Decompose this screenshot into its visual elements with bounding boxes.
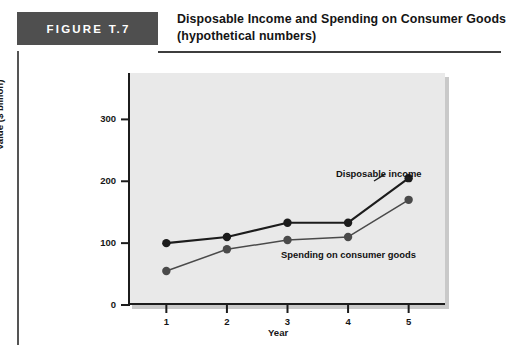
- x-tick-label: 3: [278, 316, 298, 327]
- series-label-disposable-income: Disposable income: [336, 168, 421, 179]
- data-point: [223, 245, 231, 253]
- y-axis-title: Value ($ billion): [0, 80, 5, 150]
- data-point: [404, 196, 412, 204]
- data-point: [344, 219, 352, 227]
- data-point: [344, 233, 352, 241]
- series-label-spending: Spending on consumer goods: [281, 249, 416, 260]
- x-axis-title: Year: [268, 327, 288, 338]
- y-tick-label: 300: [90, 113, 116, 124]
- data-point: [162, 239, 170, 247]
- data-point: [223, 233, 231, 241]
- data-point: [283, 236, 291, 244]
- x-tick-label: 1: [156, 316, 176, 327]
- axis-ticks: [121, 119, 409, 313]
- y-tick-label: 200: [90, 175, 116, 186]
- y-tick-label: 100: [90, 237, 116, 248]
- x-tick-label: 5: [399, 316, 419, 327]
- chart-svg: [0, 0, 515, 356]
- data-point: [162, 267, 170, 275]
- data-point: [283, 219, 291, 227]
- line-chart: Value ($ billion) Year 010020030012345 D…: [0, 0, 515, 356]
- x-tick-label: 2: [217, 316, 237, 327]
- series-line-0: [166, 178, 408, 243]
- y-tick-label: 0: [90, 299, 116, 310]
- series-line-1: [166, 200, 408, 271]
- x-tick-label: 4: [338, 316, 358, 327]
